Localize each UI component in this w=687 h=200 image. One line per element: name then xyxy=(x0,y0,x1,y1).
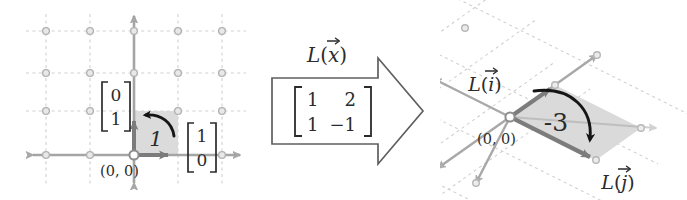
determinant-label: -3 xyxy=(544,108,568,137)
e1-column-vector: 1 0 xyxy=(188,123,216,172)
L-i-label-group: L(i) xyxy=(467,68,502,95)
L-j-label-group: L(j) xyxy=(600,166,634,193)
linear-transformation-figure: 1 (0, 0) 0 1 1 0 L(x) xyxy=(0,0,687,200)
matrix-cell-r0c0: 1 xyxy=(307,89,318,110)
function-label: L(x) xyxy=(306,43,347,67)
L-j-label: L(j) xyxy=(600,171,634,193)
matrix-cell-r1c0: 1 xyxy=(307,114,318,135)
matrix-cell-r0c1: 2 xyxy=(345,89,356,110)
matrix-cell-r1c1: −1 xyxy=(329,114,356,135)
e2-bottom-entry: 1 xyxy=(111,109,122,129)
image-origin-dot xyxy=(505,112,514,121)
image-plane-svg: -3 (0, 0) L(i) L(j) xyxy=(440,0,687,200)
function-label-group: L(x) xyxy=(306,38,347,67)
unit-area-label: 1 xyxy=(149,127,162,151)
L-i-label: L(i) xyxy=(467,73,502,95)
image-origin-label: (0, 0) xyxy=(477,131,516,147)
transformation-arrow-svg: L(x) 1 2 1 −1 xyxy=(265,0,440,200)
e2-column-vector: 0 1 xyxy=(102,82,130,131)
domain-origin-label: (0, 0) xyxy=(100,163,139,179)
domain-origin-dot xyxy=(129,150,138,159)
domain-plane-svg: 1 (0, 0) 0 1 1 0 xyxy=(0,0,265,200)
e2-top-entry: 0 xyxy=(111,85,122,105)
e1-bottom-entry: 0 xyxy=(197,150,208,170)
e1-top-entry: 1 xyxy=(197,126,208,146)
